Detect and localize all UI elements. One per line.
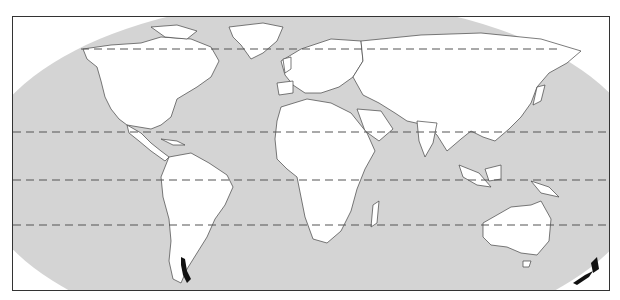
iberia (277, 81, 293, 95)
world-map (13, 17, 610, 291)
world-map-frame (12, 16, 610, 291)
